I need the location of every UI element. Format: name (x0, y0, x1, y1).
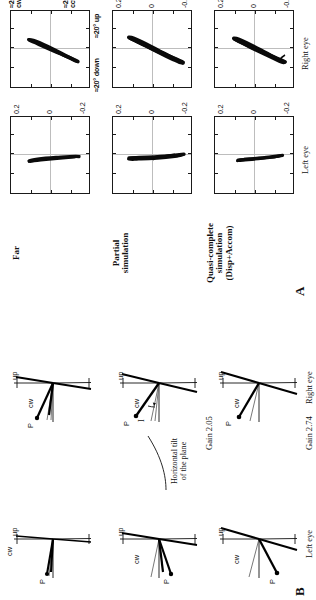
panel-b-col-label-right-eye: Right eye (304, 371, 314, 404)
axis-tick-label-x-zero: 0 (45, 110, 54, 114)
scatter-plot-partial-left-eye (112, 116, 192, 194)
panel-b: B cw P (0, 300, 316, 600)
vector-label-up: up (216, 372, 225, 380)
panel-b-letter: B (292, 587, 308, 596)
tilt-annotation-line2: of the plane (179, 442, 188, 481)
axis-tick-label-x-zero: 0 (147, 110, 156, 114)
vector-label-up: up (116, 528, 125, 536)
axis-label-ccw-group: ≈20° ccw (62, 0, 76, 8)
axis-tick-label-x-pos: 0.2 (12, 105, 21, 114)
vector-label-p: P (268, 579, 277, 584)
panel-a-row-label-partial: Partial simulation (112, 210, 131, 296)
vector-label-up: up (10, 372, 19, 380)
axis-tick-label-y-pos: 0.2 (216, 0, 225, 8)
panel-a-row-label-quasi: Quasi-complete simulation (Disp+Accom) (206, 200, 234, 306)
row-label-line3: (Disp+Accom) (224, 225, 234, 280)
axis-tick-label-y-pos: 0.2 (114, 0, 123, 8)
gain-label-quasi: Gain 2.74 (304, 416, 314, 450)
vector-label-up: up (216, 528, 225, 536)
data-cloud (113, 115, 193, 193)
vector-label-p: P (26, 423, 35, 428)
vector-label-p: P (162, 579, 171, 584)
axis-tick-label-x-neg: -0.2 (78, 102, 87, 114)
panel-a-col-label-right-eye: Right eye (300, 37, 310, 70)
data-cloud (11, 115, 91, 193)
panel-a-col-label-left-eye: Left eye (300, 146, 310, 174)
vector-label-p: P (224, 421, 233, 426)
vector-label-cw: cw (232, 399, 241, 408)
vector-label-cw: cw (132, 399, 141, 408)
scatter-plot-far-right-eye (10, 10, 90, 88)
axis-label-cw: cw (14, 0, 23, 8)
data-cloud (113, 9, 193, 87)
data-cloud (215, 9, 295, 87)
vector-label-p: P (38, 579, 47, 584)
axis-tick-label-x-zero: 0 (249, 110, 258, 114)
tilt-annotation-text: Horizontal tilt of the plane (170, 406, 189, 516)
figure-canvas: B cw P (0, 0, 316, 600)
scatter-plot-far-left-eye (10, 116, 90, 194)
axis-tick-label-x-pos: 0.2 (216, 105, 225, 114)
figure-frame: B cw P (0, 0, 316, 600)
vector-diagram-quasi-right-eye: cw P up (218, 342, 300, 424)
vector-label-cw: cw (132, 555, 141, 564)
scatter-plot-partial-right-eye (112, 10, 192, 88)
axis-tick-label-x-neg: -0.2 (180, 102, 189, 114)
data-cloud (11, 9, 91, 87)
axis-tick-label-y-neg: -0.2 (180, 0, 189, 8)
axis-tick-label-x-neg: -0.2 (282, 102, 291, 114)
vector-label-cw: cw (26, 399, 35, 408)
axis-tick-label-x-pos: 0.2 (114, 105, 123, 114)
axis-label-ccw: ccw (68, 0, 77, 8)
panel-a-letter: A (292, 287, 308, 296)
scatter-plot-quasi-left-eye (214, 116, 294, 194)
axis-label-20deg-up: ≈20° up (92, 14, 101, 38)
panel-b-col-label-left-eye: Left eye (304, 530, 314, 558)
vector-diagram-quasi-left-eye: cw P up (218, 498, 300, 580)
panel-a-row-label-far: Far (12, 210, 21, 296)
axis-label-20deg-down: ≈20° down (92, 58, 101, 92)
vector-diagram-far-right-eye: cw P up (12, 342, 94, 424)
axis-tick-label-y-neg: -0.2 (282, 0, 291, 8)
gain-label-partial: Gain 2.05 (204, 416, 214, 450)
vector-label-up: up (116, 372, 125, 380)
scatter-plot-quasi-right-eye (214, 10, 294, 88)
tilt-annotation-leader (130, 416, 170, 492)
data-cloud (215, 115, 295, 193)
vector-label-cw: cw (5, 547, 14, 556)
row-label-line2: simulation (120, 233, 130, 274)
axis-tick-label-y-zero: 0 (249, 4, 258, 8)
vector-label-up: up (10, 528, 19, 536)
panel-a: A Far Partial simulation Quasi-complete … (0, 0, 316, 300)
angle-symbol-label: I (136, 419, 146, 422)
tilt-annotation-line1: Horizontal tilt (170, 438, 179, 484)
vector-label-cw: cw (232, 555, 241, 564)
axis-tick-label-y-zero: 0 (147, 4, 156, 8)
vector-diagram-far-left-eye: cw P up (12, 498, 94, 580)
axis-label-cw-group: ≈20° cw (8, 0, 22, 8)
